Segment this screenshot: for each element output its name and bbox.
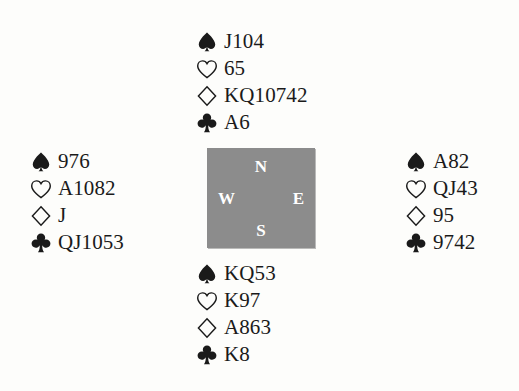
compass-box: N W E S xyxy=(207,148,315,248)
hand-east-hearts: QJ43 xyxy=(433,178,478,199)
hand-west-diamonds: J xyxy=(58,205,66,226)
diamond-icon xyxy=(405,205,427,227)
diamond-icon xyxy=(196,85,218,107)
hand-north-hearts: 65 xyxy=(224,58,245,79)
compass-label-south: S xyxy=(207,222,315,239)
heart-icon xyxy=(196,290,218,312)
hand-west: 976 A1082 J QJ1053 xyxy=(30,148,124,256)
hand-west-hearts: A1082 xyxy=(58,178,116,199)
hand-east-clubs: 9742 xyxy=(433,232,475,253)
hand-north-spades-row: J104 xyxy=(196,28,308,55)
hand-south-spades-row: KQ53 xyxy=(196,260,276,287)
spade-icon xyxy=(196,31,218,53)
spade-icon xyxy=(30,151,52,173)
compass-label-east: E xyxy=(293,190,304,207)
heart-icon xyxy=(30,178,52,200)
bridge-deal-diagram: J104 65 KQ10742 A6 976 xyxy=(0,0,519,391)
club-icon xyxy=(405,232,427,254)
diamond-icon xyxy=(30,205,52,227)
hand-north-hearts-row: 65 xyxy=(196,55,308,82)
heart-icon xyxy=(196,58,218,80)
diamond-icon xyxy=(196,317,218,339)
hand-south-hearts-row: K97 xyxy=(196,287,276,314)
hand-east-spades-row: A82 xyxy=(405,148,478,175)
hand-south: KQ53 K97 A863 K8 xyxy=(196,260,276,368)
hand-north-diamonds: KQ10742 xyxy=(224,85,308,106)
spade-icon xyxy=(196,263,218,285)
hand-north-diamonds-row: KQ10742 xyxy=(196,82,308,109)
hand-west-clubs: QJ1053 xyxy=(58,232,124,253)
compass-label-north: N xyxy=(207,158,315,175)
spade-icon xyxy=(405,151,427,173)
hand-north-spades: J104 xyxy=(224,31,264,52)
hand-west-hearts-row: A1082 xyxy=(30,175,124,202)
hand-north: J104 65 KQ10742 A6 xyxy=(196,28,308,136)
hand-east: A82 QJ43 95 9742 xyxy=(405,148,478,256)
hand-east-diamonds-row: 95 xyxy=(405,202,478,229)
hand-west-spades: 976 xyxy=(58,151,90,172)
hand-north-clubs: A6 xyxy=(224,112,250,133)
hand-east-clubs-row: 9742 xyxy=(405,229,478,256)
hand-west-diamonds-row: J xyxy=(30,202,124,229)
hand-south-clubs: K8 xyxy=(224,344,250,365)
hand-east-diamonds: 95 xyxy=(433,205,454,226)
hand-east-spades: A82 xyxy=(433,151,469,172)
hand-west-clubs-row: QJ1053 xyxy=(30,229,124,256)
club-icon xyxy=(196,112,218,134)
hand-south-spades: KQ53 xyxy=(224,263,276,284)
hand-south-diamonds-row: A863 xyxy=(196,314,276,341)
hand-north-clubs-row: A6 xyxy=(196,109,308,136)
compass-label-west: W xyxy=(218,190,235,207)
club-icon xyxy=(196,344,218,366)
club-icon xyxy=(30,232,52,254)
heart-icon xyxy=(405,178,427,200)
hand-south-diamonds: A863 xyxy=(224,317,271,338)
hand-south-clubs-row: K8 xyxy=(196,341,276,368)
hand-east-hearts-row: QJ43 xyxy=(405,175,478,202)
hand-south-hearts: K97 xyxy=(224,290,260,311)
hand-west-spades-row: 976 xyxy=(30,148,124,175)
